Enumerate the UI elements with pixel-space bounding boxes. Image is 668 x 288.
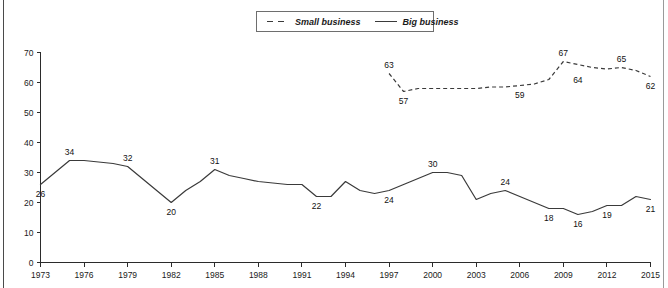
y-tick-label: 50 (24, 108, 34, 118)
chart-legend: Small businessBig business (256, 11, 434, 32)
legend-swatch-dashed (267, 21, 289, 23)
legend-entry: Big business (375, 17, 459, 27)
series-line-small-business (389, 62, 650, 92)
x-tick-label: 2009 (554, 270, 573, 280)
x-tick-label: 2015 (641, 270, 660, 280)
data-point-label: 57 (399, 96, 409, 106)
data-point-label: 24 (384, 195, 394, 205)
chart-figure: 0102030405060701973197619791982198519881… (0, 0, 668, 288)
axes: 0102030405060701973197619791982198519881… (24, 48, 660, 280)
y-tick-label: 60 (24, 78, 34, 88)
data-point-label: 65 (617, 54, 627, 64)
x-tick-label: 2003 (467, 270, 486, 280)
x-tick-label: 1994 (336, 270, 355, 280)
data-point-label: 32 (123, 153, 133, 163)
y-tick-label: 20 (24, 198, 34, 208)
data-point-label: 59 (515, 90, 525, 100)
data-point-label: 63 (384, 60, 394, 70)
data-point-label: 16 (573, 219, 583, 229)
y-tick-label: 30 (24, 168, 34, 178)
legend-label: Small business (295, 17, 361, 27)
legend-entry: Small business (267, 17, 361, 27)
y-tick-label: 10 (24, 228, 34, 238)
data-point-label: 24 (501, 177, 511, 187)
x-tick-label: 1997 (380, 270, 399, 280)
data-point-label: 18 (544, 213, 554, 223)
data-point-label: 21 (646, 204, 656, 214)
data-point-label: 20 (166, 207, 176, 217)
data-point-label: 22 (312, 201, 322, 211)
data-point-label: 64 (573, 75, 583, 85)
line-chart-plot: 0102030405060701973197619791982198519881… (0, 0, 668, 288)
x-tick-label: 1976 (75, 270, 94, 280)
legend-label: Big business (403, 17, 459, 27)
data-point-label: 19 (602, 210, 612, 220)
data-point-label: 26 (36, 189, 46, 199)
y-tick-label: 40 (24, 138, 34, 148)
data-point-labels: 2634322031222430241816192163575967646562 (36, 48, 656, 229)
legend-swatch-solid (375, 21, 397, 23)
data-point-label: 62 (646, 81, 656, 91)
x-tick-label: 1979 (118, 270, 137, 280)
x-tick-label: 1988 (249, 270, 268, 280)
y-tick-label: 0 (29, 258, 34, 268)
data-point-label: 31 (210, 156, 220, 166)
x-tick-label: 1973 (31, 270, 50, 280)
data-point-label: 30 (428, 159, 438, 169)
y-tick-label: 70 (24, 48, 34, 58)
x-tick-label: 1991 (292, 270, 311, 280)
x-tick-label: 2000 (423, 270, 442, 280)
x-tick-label: 2006 (510, 270, 529, 280)
data-series (41, 62, 651, 215)
data-point-label: 67 (559, 48, 569, 58)
x-tick-label: 1982 (162, 270, 181, 280)
series-line-big-business (41, 161, 651, 215)
data-point-label: 34 (65, 147, 75, 157)
x-tick-label: 1985 (205, 270, 224, 280)
x-tick-label: 2012 (597, 270, 616, 280)
